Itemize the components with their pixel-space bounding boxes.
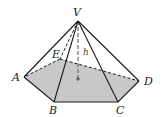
vertex-label-E: E: [51, 48, 60, 61]
height-label: h: [83, 47, 89, 57]
vertex-label-A: A: [11, 71, 20, 84]
vertex-label-B: B: [48, 104, 57, 117]
vertex-label-D: D: [143, 75, 153, 88]
vertex-label-V: V: [73, 6, 82, 19]
base-center-dot: [76, 77, 80, 81]
vertex-label-C: C: [116, 104, 125, 117]
pyramid-diagram: V A B C D E h: [0, 0, 164, 117]
